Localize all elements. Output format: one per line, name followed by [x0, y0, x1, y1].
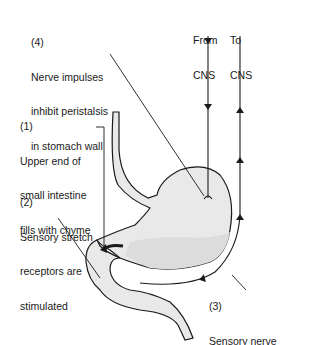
label-from-cns: From CNS: [193, 12, 218, 93]
label-to-cns: To CNS: [230, 12, 252, 93]
label-step2: (2) Sensory stretch receptors are stimul…: [20, 174, 93, 324]
label-step3: (3) Sensory nerve impulses travel to cen…: [209, 278, 283, 345]
